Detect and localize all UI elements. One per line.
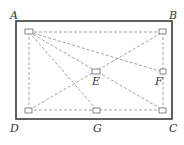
marker-e: [92, 69, 100, 74]
marker-top-left: [25, 29, 33, 34]
marker-g: [93, 108, 100, 113]
marker-top-right: [159, 29, 166, 34]
marker-bottom-right: [159, 108, 166, 113]
point-markers: [25, 29, 166, 113]
label-g: G: [93, 122, 102, 135]
label-a: A: [9, 9, 18, 22]
dashed-to-f: [29, 32, 163, 72]
marker-f: [160, 69, 166, 74]
label-d: D: [9, 122, 19, 135]
label-f: F: [154, 75, 163, 88]
dashed-to-g: [29, 32, 97, 110]
marker-bottom-left: [25, 108, 32, 113]
label-e: E: [91, 75, 100, 88]
rectangle-diagram: A B D G C E F: [0, 0, 184, 145]
label-b: B: [168, 9, 177, 22]
label-c: C: [169, 122, 178, 135]
